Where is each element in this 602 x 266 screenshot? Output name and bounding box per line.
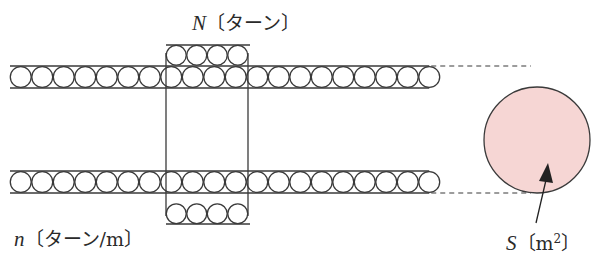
N-turn-coil [166, 45, 250, 224]
S-unit-open: 〔m [517, 232, 554, 254]
n-unit: 〔ターン/m〕 [25, 228, 143, 250]
cross-section-circle [484, 87, 590, 193]
n-turns-per-meter-label: n〔ターン/m〕 [14, 224, 143, 252]
bottom-winding-row [10, 171, 440, 193]
N-variable: N [192, 11, 206, 35]
S-variable: S [506, 231, 517, 255]
N-unit: 〔ターン〕 [206, 12, 300, 34]
N-turns-label: N〔ターン〕 [192, 8, 300, 36]
S-area-label: S〔m2〕 [506, 228, 580, 256]
top-winding-row [10, 66, 440, 88]
S-unit-close: 〕 [561, 232, 580, 254]
n-variable: n [14, 227, 25, 251]
